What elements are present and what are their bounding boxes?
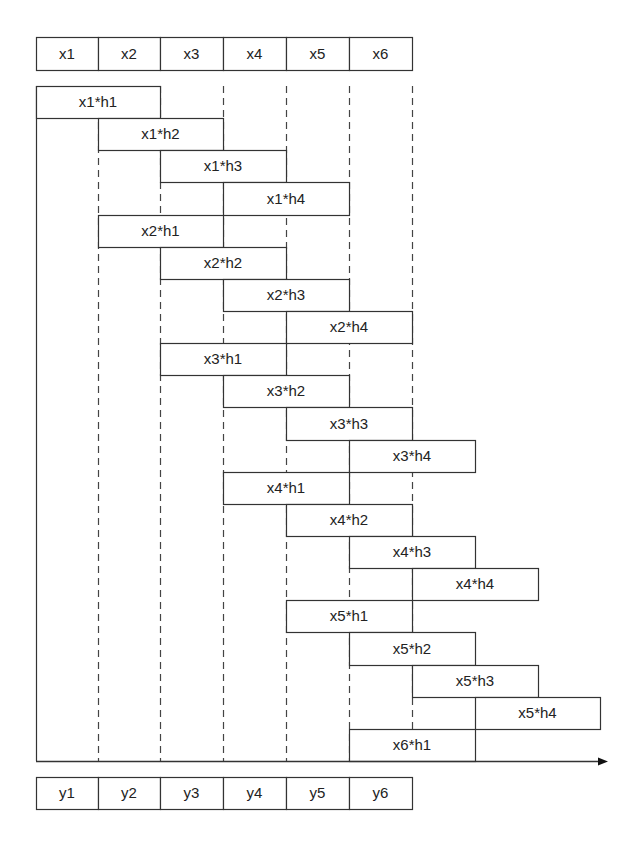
- product-box-label: x1*h4: [267, 190, 305, 207]
- input-cell: x2: [99, 38, 161, 71]
- product-box: x5*h2: [350, 633, 476, 666]
- product-box: x2*h4: [287, 312, 413, 344]
- product-box: x4*h2: [287, 505, 413, 537]
- product-box: x1*h1: [37, 87, 161, 119]
- product-box-label: x2*h3: [267, 286, 305, 303]
- output-cell-label: y5: [310, 784, 326, 801]
- partial-products: x1*h1x1*h2x1*h3x1*h4x2*h1x2*h2x2*h3x2*h4…: [37, 87, 601, 762]
- product-box-label: x3*h1: [204, 350, 242, 367]
- input-cell-label: x5: [310, 45, 326, 62]
- output-cell: y1: [37, 778, 99, 810]
- product-box-label: x1*h1: [79, 93, 117, 110]
- output-cell-label: y1: [59, 784, 75, 801]
- product-box: x5*h1: [287, 601, 413, 633]
- time-axis: [36, 758, 608, 766]
- product-box-label: x5*h3: [456, 672, 494, 689]
- product-box: x4*h4: [413, 569, 539, 601]
- product-box-label: x5*h4: [518, 704, 556, 721]
- product-box-label: x4*h3: [393, 543, 431, 560]
- output-cell: y4: [224, 778, 287, 810]
- product-box: x2*h3: [224, 280, 350, 312]
- product-box-label: x3*h3: [330, 415, 368, 432]
- product-box: x3*h2: [224, 376, 350, 408]
- input-cell-label: x3: [184, 45, 200, 62]
- product-box-label: x5*h2: [393, 640, 431, 657]
- input-cell-label: x2: [121, 45, 137, 62]
- output-cell: y6: [350, 778, 413, 810]
- product-box: x1*h2: [99, 119, 224, 151]
- input-cell: x3: [161, 38, 224, 71]
- product-box: x4*h3: [350, 537, 476, 569]
- input-cell-label: x6: [373, 45, 389, 62]
- product-box-label: x3*h4: [393, 447, 431, 464]
- arrow-head-icon: [598, 758, 608, 766]
- product-box: x4*h1: [224, 473, 350, 505]
- product-box-label: x1*h2: [141, 125, 179, 142]
- product-box: x6*h1: [350, 730, 476, 762]
- output-cell-label: y4: [247, 784, 263, 801]
- product-box: x2*h1: [99, 216, 224, 248]
- output-sequence-row: y1y2y3y4y5y6: [37, 778, 413, 810]
- product-box: x1*h3: [161, 151, 287, 183]
- product-box-label: x3*h2: [267, 382, 305, 399]
- input-cell-label: x1: [59, 45, 75, 62]
- product-box-label: x2*h2: [204, 254, 242, 271]
- product-box-label: x5*h1: [330, 607, 368, 624]
- product-box: x5*h3: [413, 666, 539, 698]
- output-cell: y5: [287, 778, 350, 810]
- output-cell: y2: [99, 778, 161, 810]
- product-box-label: x2*h4: [330, 318, 368, 335]
- product-box: x3*h1: [161, 344, 287, 376]
- product-box: x3*h3: [287, 408, 413, 441]
- output-cell: y3: [161, 778, 224, 810]
- product-box-label: x4*h4: [456, 575, 494, 592]
- input-cell: x4: [224, 38, 287, 71]
- output-cell-label: y2: [121, 784, 137, 801]
- product-box: x1*h4: [224, 183, 350, 216]
- product-box-label: x4*h1: [267, 479, 305, 496]
- product-box: x2*h2: [161, 248, 287, 280]
- input-cell-label: x4: [247, 45, 263, 62]
- product-box: x5*h4: [476, 698, 601, 730]
- product-box-label: x2*h1: [141, 222, 179, 239]
- product-box-label: x4*h2: [330, 511, 368, 528]
- product-box: x3*h4: [350, 441, 476, 473]
- output-cell-label: y3: [184, 784, 200, 801]
- input-sequence-row: x1x2x3x4x5x6: [37, 38, 413, 71]
- output-cell-label: y6: [373, 784, 389, 801]
- convolution-timing-diagram: x1x2x3x4x5x6 x1*h1x1*h2x1*h3x1*h4x2*h1x2…: [0, 0, 632, 844]
- input-cell: x5: [287, 38, 350, 71]
- product-box-label: x6*h1: [393, 736, 431, 753]
- input-cell: x1: [37, 38, 99, 71]
- product-box-label: x1*h3: [204, 157, 242, 174]
- input-cell: x6: [350, 38, 413, 71]
